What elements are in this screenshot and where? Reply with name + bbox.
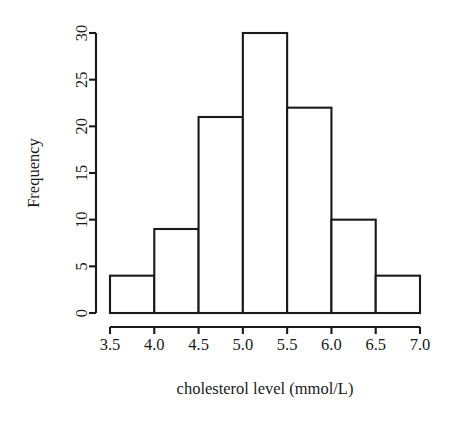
y-axis-tick-label: 15 <box>72 165 91 182</box>
x-axis-tick-label: 5.5 <box>277 335 298 354</box>
y-axis-title: Frequency <box>24 137 43 207</box>
histogram-bar <box>287 108 331 313</box>
y-axis-tick-label: 20 <box>72 118 91 135</box>
x-axis-tick-label: 4.0 <box>144 335 165 354</box>
x-axis-tick-label: 6.5 <box>365 335 386 354</box>
x-axis-tick-label: 5.0 <box>233 335 254 354</box>
histogram-figure: 051015202530 3.54.04.55.05.56.06.57.0 ch… <box>0 0 467 423</box>
bars-group <box>110 33 420 313</box>
y-axis-tick-label: 25 <box>72 71 91 88</box>
y-axis-tick-label: 5 <box>72 262 91 270</box>
histogram-plot: 051015202530 3.54.04.55.05.56.06.57.0 ch… <box>0 0 467 423</box>
x-axis-tick-label: 4.5 <box>188 335 209 354</box>
histogram-bar <box>243 33 287 313</box>
x-axis-title: cholesterol level (mmol/L) <box>177 379 354 398</box>
histogram-bar <box>376 276 420 313</box>
y-axis-tick-label: 10 <box>72 211 91 228</box>
histogram-bar <box>331 220 375 313</box>
histogram-bar <box>110 276 154 313</box>
y-axis-tick-label: 0 <box>72 309 91 317</box>
histogram-bar <box>154 229 198 313</box>
x-axis-tick-label: 3.5 <box>100 335 121 354</box>
x-axis-group: 3.54.04.55.05.56.06.57.0 <box>100 327 431 354</box>
y-axis-tick-label: 30 <box>72 25 91 42</box>
x-axis-tick-label: 7.0 <box>410 335 431 354</box>
x-axis-tick-label: 6.0 <box>321 335 342 354</box>
histogram-bar <box>199 117 243 313</box>
y-axis-group: 051015202530 <box>72 25 96 317</box>
